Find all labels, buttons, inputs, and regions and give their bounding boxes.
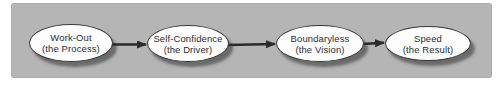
node-subtitle: (the Result): [403, 44, 453, 55]
node-title: Speed: [414, 33, 442, 44]
flow-diagram: Work-Out (the Process) Self-Confidence (…: [0, 0, 502, 92]
node-self-confidence: Self-Confidence (the Driver): [147, 25, 229, 62]
node-title: Self-Confidence: [153, 33, 222, 44]
node-speed: Speed (the Result): [385, 26, 471, 61]
node-title: Boundaryless: [291, 33, 350, 44]
node-title: Work-Out: [50, 32, 91, 43]
node-subtitle: (the Vision): [295, 44, 344, 55]
node-work-out: Work-Out (the Process): [29, 24, 113, 62]
node-subtitle: (the Process): [42, 43, 100, 54]
node-boundaryless: Boundaryless (the Vision): [276, 25, 364, 62]
node-subtitle: (the Driver): [164, 44, 213, 55]
